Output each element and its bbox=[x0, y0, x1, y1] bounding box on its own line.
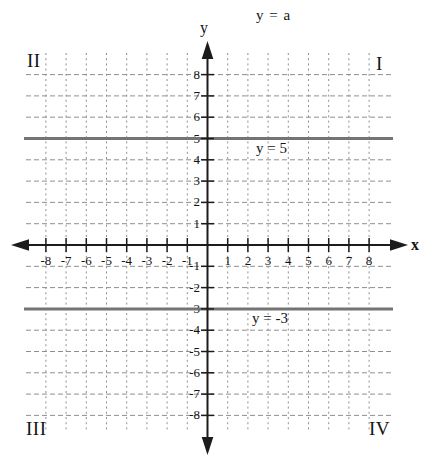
x-tick-label: -8 bbox=[40, 253, 51, 268]
y-tick-label: 4 bbox=[194, 152, 201, 167]
quadrant-iii-label: III bbox=[26, 419, 46, 438]
x-tick-label: -3 bbox=[141, 253, 152, 268]
x-tick-label: 7 bbox=[346, 253, 353, 268]
x-tick-label: -2 bbox=[162, 253, 173, 268]
y-tick-label: -2 bbox=[189, 280, 200, 295]
x-tick-label: 1 bbox=[224, 253, 231, 268]
y-axis-top-arrowhead bbox=[202, 41, 214, 59]
y-tick-label: -1 bbox=[189, 258, 200, 273]
y-axis-label: y bbox=[200, 20, 208, 36]
y-tick-label: -7 bbox=[189, 386, 200, 401]
y-tick-label: -5 bbox=[189, 344, 200, 359]
figure-title: y = a bbox=[256, 8, 291, 23]
y-tick-label: 1 bbox=[194, 216, 201, 231]
x-axis-label: x bbox=[411, 237, 419, 253]
graph-figure: -8-7-6-5-4-3-2-112345678-8-7-6-5-4-3-2-1… bbox=[0, 0, 426, 460]
y-axis-bottom-arrowhead bbox=[202, 437, 214, 455]
coordinate-plane: -8-7-6-5-4-3-2-112345678-8-7-6-5-4-3-2-1… bbox=[0, 0, 426, 460]
y-tick-label: 7 bbox=[194, 88, 201, 103]
y-tick-label: -8 bbox=[189, 407, 200, 422]
x-tick-label: -6 bbox=[81, 253, 92, 268]
quadrant-ii-label: II bbox=[27, 51, 41, 70]
x-tick-label: -4 bbox=[121, 253, 132, 268]
x-tick-label: 5 bbox=[305, 253, 312, 268]
y-tick-label: -6 bbox=[189, 365, 200, 380]
quadrant-iv-label: IV bbox=[369, 419, 390, 438]
x-tick-label: 8 bbox=[366, 253, 373, 268]
x-tick-label: 6 bbox=[325, 253, 332, 268]
x-tick-label: -7 bbox=[61, 253, 72, 268]
y-tick-label: 2 bbox=[194, 194, 201, 209]
quadrant-i-label: I bbox=[376, 54, 383, 73]
x-axis-right-arrowhead bbox=[390, 239, 408, 251]
x-tick-label: -5 bbox=[101, 253, 112, 268]
x-tick-label: 3 bbox=[265, 253, 272, 268]
x-tick-label: 4 bbox=[285, 253, 292, 268]
x-axis-left-arrowhead bbox=[11, 239, 29, 251]
y-tick-label: -4 bbox=[189, 322, 200, 337]
y-tick-label: 6 bbox=[194, 109, 201, 124]
line-y-equals-5-label: y = 5 bbox=[256, 141, 287, 156]
y-tick-label: 3 bbox=[194, 173, 201, 188]
y-tick-label: 8 bbox=[194, 67, 201, 82]
x-tick-label: 2 bbox=[245, 253, 252, 268]
line-y-equals-neg3-label: y = -3 bbox=[252, 311, 288, 326]
